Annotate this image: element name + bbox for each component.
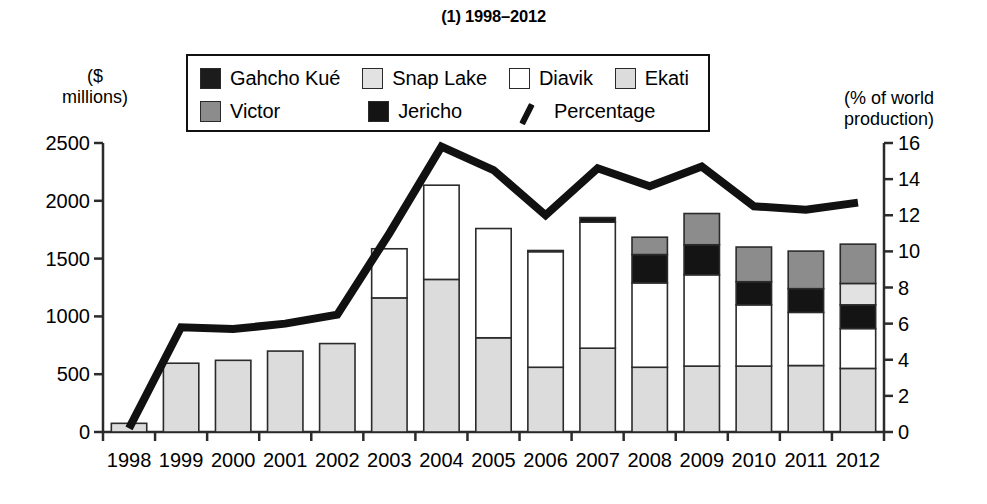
- right-axis-tick-label: 4: [898, 350, 958, 370]
- bar-segment-jericho: [632, 255, 667, 283]
- bar-group-2009: [684, 214, 719, 432]
- bar-group-2008: [632, 237, 667, 432]
- right-axis-tick-label: 0: [898, 422, 958, 442]
- bar-segment-jericho: [684, 245, 719, 275]
- bar-segment-diavik: [840, 329, 875, 369]
- bar-segment-ekati: [580, 348, 615, 432]
- bar-segment-jericho: [788, 289, 823, 313]
- bar-group-2004: [424, 185, 459, 432]
- bar-segment-snap-lake: [840, 283, 875, 304]
- bar-segment-ekati: [215, 360, 250, 432]
- bar-segment-victor: [632, 237, 667, 254]
- bar-segment-jericho: [840, 305, 875, 329]
- bar-segment-diavik: [476, 229, 511, 338]
- bar-segment-diavik: [788, 312, 823, 365]
- right-axis-tick-label: 2: [898, 386, 958, 406]
- bar-segment-ekati: [528, 367, 563, 432]
- bar-group-2010: [736, 247, 771, 432]
- left-axis-tick-label: 1500: [10, 249, 90, 269]
- bar-group-2005: [476, 229, 511, 432]
- bar-segment-diavik: [528, 252, 563, 368]
- bar-segment-ekati: [840, 368, 875, 432]
- bar-group-2007: [580, 218, 615, 432]
- right-axis-tick-label: 6: [898, 314, 958, 334]
- bar-segment-ekati: [736, 366, 771, 432]
- bar-segment-victor: [736, 247, 771, 282]
- right-axis-tick-label: 16: [898, 133, 958, 153]
- chart-plot-area: [0, 0, 987, 504]
- bar-group-2011: [788, 251, 823, 432]
- bar-segment-diavik: [736, 305, 771, 366]
- bar-group-1999: [163, 363, 198, 432]
- bar-group-2012: [840, 244, 875, 432]
- bar-segment-diavik: [424, 185, 459, 279]
- bar-segment-victor: [840, 244, 875, 283]
- bar-segment-jericho: [580, 218, 615, 223]
- bar-segment-ekati: [268, 351, 303, 432]
- bar-segment-ekati: [372, 298, 407, 432]
- bar-group-2003: [372, 249, 407, 432]
- right-axis-tick-label: 14: [898, 169, 958, 189]
- bar-segment-diavik: [580, 222, 615, 348]
- bar-segment-diavik: [632, 283, 667, 367]
- right-axis-tick-label: 12: [898, 205, 958, 225]
- bar-segment-ekati: [424, 279, 459, 432]
- bar-group-2006: [528, 251, 563, 432]
- left-axis-tick-label: 0: [10, 422, 90, 442]
- bar-segment-diavik: [684, 275, 719, 366]
- bar-segment-victor: [788, 251, 823, 289]
- bar-segment-ekati: [476, 338, 511, 432]
- bar-segment-ekati: [632, 367, 667, 432]
- left-axis-tick-label: 2500: [10, 133, 90, 153]
- bar-segment-jericho: [736, 282, 771, 305]
- left-axis-tick-label: 2000: [10, 191, 90, 211]
- left-axis-tick-label: 500: [10, 364, 90, 384]
- bar-segment-ekati: [320, 344, 355, 432]
- left-axis-tick-label: 1000: [10, 306, 90, 326]
- bar-group-2002: [320, 344, 355, 432]
- bar-segment-victor: [684, 214, 719, 245]
- bar-segment-ekati: [788, 366, 823, 432]
- bar-segment-ekati: [163, 363, 198, 432]
- x-axis-tick-label: 2012: [823, 450, 893, 470]
- bar-group-2000: [215, 360, 250, 432]
- bar-segment-jericho: [528, 251, 563, 252]
- right-axis-tick-label: 10: [898, 241, 958, 261]
- right-axis-tick-label: 8: [898, 278, 958, 298]
- bar-segment-ekati: [684, 366, 719, 432]
- bar-group-2001: [268, 351, 303, 432]
